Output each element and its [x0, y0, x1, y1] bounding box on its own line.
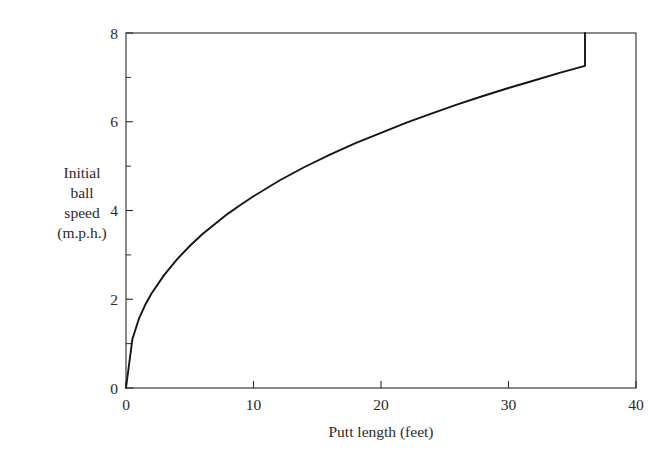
speed-vs-length-curve	[126, 33, 585, 388]
y-axis-title: Initialballspeed(m.p.h.)	[57, 164, 107, 242]
x-tick-label-40: 40	[628, 396, 644, 413]
y-axis-title-line-4: (m.p.h.)	[57, 224, 107, 242]
y-axis-title-line-3: speed	[64, 204, 100, 221]
y-tick-label-0: 0	[110, 380, 118, 397]
y-tick-label-2: 2	[110, 291, 118, 308]
y-tick-label-4: 4	[110, 202, 118, 219]
y-tick-label-8: 8	[110, 25, 118, 42]
x-axis-tick-labels: 010203040	[122, 396, 644, 413]
chart-plot-area: 010203040 02468 Putt length (feet) Initi…	[0, 0, 661, 465]
y-axis-title-line-1: Initial	[63, 164, 100, 181]
x-tick-label-30: 30	[501, 396, 517, 413]
y-axis-title-line-2: ball	[70, 184, 93, 201]
plot-frame	[126, 33, 636, 388]
x-tick-label-10: 10	[246, 396, 262, 413]
y-axis-tick-labels: 02468	[110, 25, 118, 397]
x-axis-title: Putt length (feet)	[328, 423, 433, 441]
x-axis-ticks	[126, 381, 636, 388]
chart-figure: 010203040 02468 Putt length (feet) Initi…	[0, 0, 661, 465]
y-tick-label-6: 6	[110, 113, 118, 130]
x-tick-label-20: 20	[373, 396, 389, 413]
y-axis-major-ticks	[126, 33, 133, 388]
x-tick-label-0: 0	[122, 396, 130, 413]
